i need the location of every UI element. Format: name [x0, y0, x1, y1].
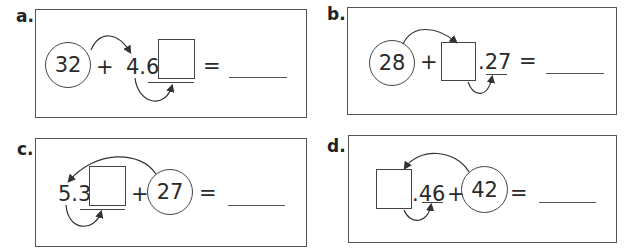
- problem-c-decimal: 5.3: [58, 182, 91, 206]
- problem-a-decimal: 4.6: [126, 55, 159, 79]
- problem-a-answer-box[interactable]: [158, 39, 195, 79]
- problem-a-answer-blank[interactable]: [229, 77, 287, 78]
- problem-b-answer-blank[interactable]: [546, 73, 604, 74]
- problem-c-underline: [80, 209, 125, 210]
- problem-d-equals: =: [510, 181, 528, 205]
- problem-b-underline: [486, 74, 507, 75]
- problem-d-whole: 42: [471, 178, 498, 202]
- problem-b-answer-box[interactable]: [441, 42, 476, 81]
- problem-d-underline: [422, 202, 443, 203]
- problem-a-whole: 32: [55, 53, 82, 77]
- problem-c-plus: +: [131, 182, 149, 206]
- problem-a-whole-circle: 32: [45, 42, 91, 88]
- problem-c-answer-box[interactable]: [89, 166, 126, 206]
- problem-a-underline: [148, 82, 194, 83]
- problem-b-decimal: .27: [478, 50, 511, 74]
- problem-c-whole: 27: [157, 180, 184, 204]
- problem-c-equals: =: [199, 181, 217, 205]
- problem-a-equals: =: [203, 54, 221, 78]
- problem-c-answer-blank[interactable]: [228, 205, 285, 206]
- problem-d-label: d.: [327, 136, 346, 156]
- problem-a-label: a.: [16, 6, 34, 26]
- problem-d-answer-box[interactable]: [376, 169, 412, 209]
- problem-c-label: c.: [17, 139, 34, 159]
- problem-d-answer-blank[interactable]: [539, 202, 596, 203]
- problem-a-plus: +: [96, 55, 114, 79]
- problem-b-equals: =: [519, 49, 537, 73]
- problem-b-whole: 28: [379, 51, 406, 75]
- problem-b-plus: +: [420, 50, 438, 74]
- problem-d-whole-circle: 42: [461, 166, 508, 213]
- problem-b-label: b.: [327, 4, 346, 24]
- problem-c-whole-circle: 27: [147, 169, 193, 215]
- problem-b-whole-circle: 28: [369, 40, 415, 86]
